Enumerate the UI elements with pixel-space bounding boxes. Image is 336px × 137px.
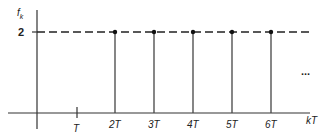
stem-marker-2T <box>113 30 117 34</box>
x-tick-label-6T: 6T <box>265 119 278 130</box>
y-tick-label-2: 2 <box>18 26 24 38</box>
x-tick-label-2T: 2T <box>108 119 122 130</box>
y-axis-label-sub: k <box>20 13 24 20</box>
stem-marker-6T <box>269 30 273 34</box>
x-axis-label: kT <box>306 115 318 126</box>
stems <box>113 30 273 113</box>
stem-marker-4T <box>191 30 195 34</box>
stem-marker-5T <box>230 30 234 34</box>
y-axis-label: fk <box>17 7 24 20</box>
x-tick-label-4T: 4T <box>187 119 200 130</box>
x-tick-label-T: T <box>73 123 80 134</box>
x-tick-label-5T: 5T <box>226 119 239 130</box>
stem-chart: 2 fk T 2T 3T 4T 5T 6T kT ... <box>0 0 336 137</box>
stem-marker-3T <box>152 30 156 34</box>
x-tick-label-3T: 3T <box>148 119 161 130</box>
continuation-ellipsis: ... <box>301 65 310 77</box>
